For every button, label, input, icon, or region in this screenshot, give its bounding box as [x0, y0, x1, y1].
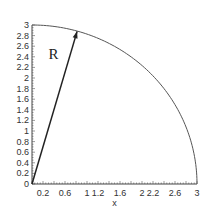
y-tick-label: 3 — [24, 20, 29, 30]
radius-label: R — [49, 46, 59, 62]
y-tick-label: 0.2 — [16, 168, 29, 178]
y-tick-label: 1.4 — [16, 105, 29, 115]
x-tick-label: 2.6 — [169, 188, 182, 198]
y-tick-label: 1.6 — [16, 94, 29, 104]
y-tick-label: 0.4 — [16, 158, 29, 168]
x-tick-label: 2.2 — [147, 188, 160, 198]
x-tick-label: 2 — [139, 188, 144, 198]
y-tick-label: 1 — [24, 126, 29, 136]
y-tick-label: 2.6 — [16, 41, 29, 51]
x-tick-label: 3 — [194, 188, 199, 198]
x-axis-label: x — [112, 198, 117, 208]
quarter-circle-plot: 00.20.40.60.811.21.41.61.822.22.42.62.83… — [0, 0, 207, 213]
x-tick-label: 0.2 — [37, 188, 50, 198]
arrowhead-icon — [73, 31, 78, 38]
y-tick-label: 0.8 — [16, 137, 29, 147]
x-tick-label: 0.6 — [59, 188, 72, 198]
y-tick-label: 2 — [24, 73, 29, 83]
y-tick-label: 1.2 — [16, 115, 29, 125]
x-tick-label: 1.6 — [114, 188, 127, 198]
y-tick-label: 0 — [24, 179, 29, 189]
x-tick-label: 1 — [84, 188, 89, 198]
y-tick-label: 1.8 — [16, 84, 29, 94]
y-tick-label: 2.2 — [16, 62, 29, 72]
axes: 00.20.40.60.811.21.41.61.822.22.42.62.83… — [16, 20, 199, 198]
y-tick-label: 0.6 — [16, 147, 29, 157]
y-tick-label: 2.4 — [16, 52, 29, 62]
y-tick-label: 2.8 — [16, 31, 29, 41]
x-tick-label: 1.2 — [92, 188, 105, 198]
